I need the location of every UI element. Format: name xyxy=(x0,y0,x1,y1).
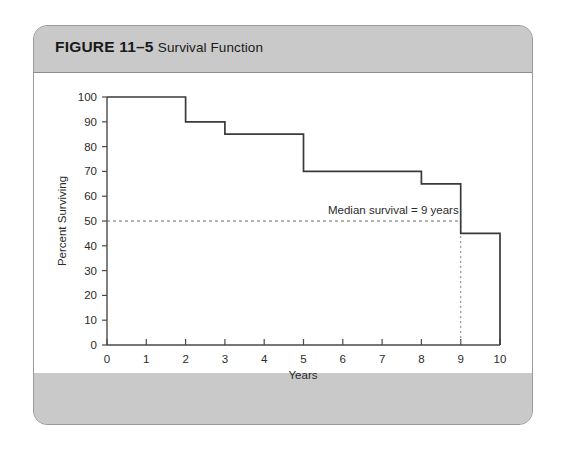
figure-number: FIGURE 11–5 xyxy=(55,38,154,55)
figure-card: FIGURE 11–5 Survival Function xyxy=(33,25,533,425)
figure-footer xyxy=(34,373,532,424)
figure-caption: Survival Function xyxy=(158,40,263,55)
figure-screenshot: FIGURE 11–5 Survival Function 0102030405… xyxy=(0,0,566,454)
figure-body xyxy=(34,72,532,375)
figure-header: FIGURE 11–5 Survival Function xyxy=(34,26,532,72)
figure-title: FIGURE 11–5 Survival Function xyxy=(55,38,263,56)
